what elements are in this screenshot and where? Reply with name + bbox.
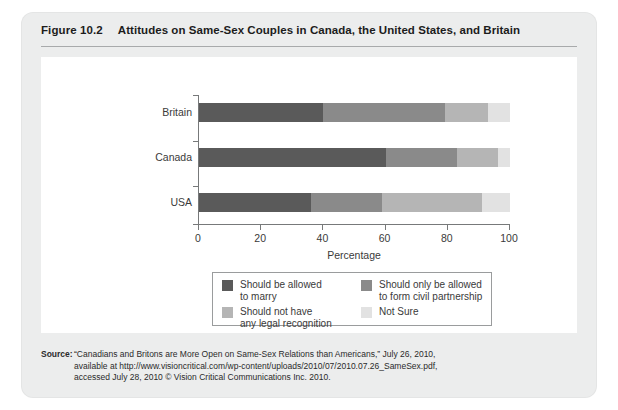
legend-entry[interactable]: Should be allowed to marry (222, 279, 362, 302)
x-axis-tick-label: 0 (178, 232, 218, 244)
figure-header: Figure 10.2 Attitudes on Same-Sex Couple… (22, 13, 596, 47)
bar-segment (323, 103, 444, 122)
bar-segment (386, 148, 458, 167)
source-note: Source: “Canadians and Britons are More … (41, 349, 581, 384)
x-axis-tick-label: 80 (427, 232, 467, 244)
source-line: “Canadians and Britons are More Open on … (74, 349, 581, 361)
bar-segment (311, 193, 383, 212)
legend-entry[interactable]: Not Sure (361, 306, 501, 318)
source-line: available at http://www.visioncritical.c… (74, 361, 581, 373)
legend-column-left: Should be allowed to marryShould not hav… (222, 279, 362, 333)
legend-label: Should only be allowed to form civil par… (379, 279, 482, 302)
figure-card: Figure 10.2 Attitudes on Same-Sex Couple… (22, 13, 596, 397)
header-divider (41, 46, 577, 47)
y-axis-tick-label: Canada (46, 151, 192, 163)
legend-entry[interactable]: Should only be allowed to form civil par… (361, 279, 501, 302)
y-axis-tick-label: USA (46, 196, 192, 208)
bar-segment (199, 148, 386, 167)
x-axis-tick (447, 225, 448, 230)
legend-label: Not Sure (379, 306, 418, 318)
legend-column-right: Should only be allowed to form civil par… (361, 279, 501, 322)
x-axis-tick-label: 100 (489, 232, 529, 244)
chart-plot-panel: BritainCanadaUSA020406080100 Percentage … (41, 57, 577, 333)
legend-swatch-icon (222, 307, 233, 318)
legend-swatch-icon (222, 280, 233, 291)
y-axis-tick (193, 141, 198, 142)
bar-row (199, 103, 510, 122)
x-axis-tick-label: 20 (240, 232, 280, 244)
x-axis-tick (322, 225, 323, 230)
figure-number: Figure 10.2 (41, 24, 103, 36)
x-axis-tick-label: 40 (302, 232, 342, 244)
legend-entry[interactable]: Should not have any legal recognition (222, 306, 362, 329)
x-axis-tick (385, 225, 386, 230)
x-axis-tick (198, 225, 199, 230)
bar-segment (488, 103, 510, 122)
source-lines: “Canadians and Britons are More Open on … (74, 349, 581, 384)
x-axis-tick (509, 225, 510, 230)
bar-segment (482, 193, 510, 212)
bar-row (199, 193, 510, 212)
y-axis-tick (193, 95, 198, 96)
legend-swatch-icon (361, 280, 372, 291)
x-axis-title: Percentage (198, 249, 510, 261)
bar-segment (199, 193, 311, 212)
x-axis-line (198, 224, 510, 225)
y-axis-tick (193, 186, 198, 187)
figure-title: Attitudes on Same-Sex Couples in Canada,… (118, 24, 520, 36)
legend-label: Should not have any legal recognition (240, 306, 332, 329)
bar-row (199, 148, 510, 167)
bar-segment (457, 148, 497, 167)
bar-segment (498, 148, 510, 167)
legend-label: Should be allowed to marry (240, 279, 322, 302)
legend-swatch-icon (361, 307, 372, 318)
source-label: Source: (41, 349, 73, 359)
source-line: accessed July 28, 2010 © Vision Critical… (74, 372, 581, 384)
bar-segment (382, 193, 482, 212)
y-axis-tick-label: Britain (46, 106, 192, 118)
chart-legend: Should be allowed to marryShould not hav… (212, 272, 492, 326)
bar-segment (445, 103, 489, 122)
bar-segment (199, 103, 323, 122)
x-axis-tick (260, 225, 261, 230)
x-axis-tick-label: 60 (365, 232, 405, 244)
